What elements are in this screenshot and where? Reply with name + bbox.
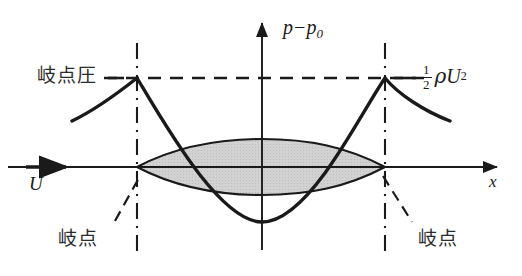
stagnation-point-right-label: 岐点	[418, 229, 458, 248]
right-stagnation-leader	[383, 176, 412, 222]
x-axis-label: x	[489, 173, 497, 190]
pressure-axis-label-minus: −	[293, 16, 307, 38]
fraction-denominator: 2	[421, 77, 432, 92]
pressure-axis-label-p0: p	[307, 16, 317, 38]
velocity-symbol: U	[446, 66, 460, 86]
dynamic-pressure-label: 1 2 ρU2	[421, 62, 467, 90]
rho-symbol: ρ	[435, 66, 447, 86]
stagnation-point-left-label: 岐点	[58, 229, 98, 248]
stagnation-pressure-label: 岐点圧	[37, 66, 97, 85]
one-half-fraction: 1 2	[421, 63, 432, 91]
fraction-numerator: 1	[421, 63, 432, 77]
freestream-velocity-label: U	[29, 174, 43, 193]
pressure-axis-label: p−p0	[283, 17, 323, 40]
pressure-axis-label-subscript: 0	[317, 26, 324, 41]
velocity-exponent: 2	[461, 70, 467, 82]
pressure-axis-label-p: p	[283, 16, 293, 38]
pressure-distribution-figure: 岐点圧 p−p0 1 2 ρU2 U x 岐点 岐点	[0, 0, 522, 276]
